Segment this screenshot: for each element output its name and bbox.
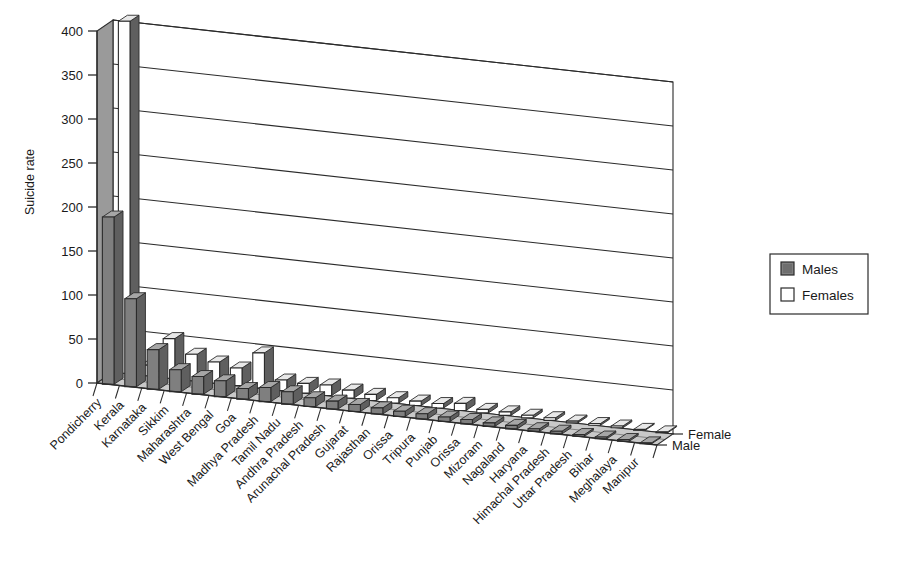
bar-front-face — [282, 392, 294, 404]
category-tick — [384, 415, 388, 428]
y-axis-tick-label: 100 — [61, 288, 83, 303]
category-tick — [541, 433, 545, 446]
legend-swatch-males-inner — [783, 264, 792, 273]
bar-front-face — [147, 350, 159, 390]
category-tick — [407, 418, 411, 431]
series-label-male: Male — [672, 438, 700, 453]
bar-front-face — [102, 217, 114, 384]
category-tick — [227, 398, 231, 411]
bar-male — [192, 371, 213, 395]
category-tick — [205, 395, 209, 408]
legend-label-females: Females — [802, 288, 854, 303]
y-axis-tick-label: 400 — [61, 24, 83, 39]
category-tick — [496, 428, 500, 441]
category-tick — [183, 393, 187, 406]
bar-male — [102, 211, 123, 384]
bar-side-face — [136, 293, 145, 387]
bar-front-face — [170, 370, 182, 392]
bar-front-face — [522, 415, 534, 418]
bar-front-face — [192, 377, 204, 395]
bar-male — [125, 293, 146, 387]
bar-front-face — [566, 421, 578, 423]
category-tick — [519, 430, 523, 443]
y-axis-title: Suicide rate — [23, 149, 37, 215]
category-tick — [317, 408, 321, 421]
category-tick — [631, 443, 635, 456]
category-tick — [138, 388, 142, 401]
y-axis-tick-label: 0 — [76, 376, 83, 391]
bar-front-face — [477, 409, 489, 413]
bar-front-face — [611, 426, 623, 428]
legend: MalesFemales — [770, 254, 868, 314]
bar-front-face — [544, 418, 556, 421]
bar-front-face — [454, 403, 466, 410]
bar-front-face — [259, 388, 271, 402]
category-tick — [295, 405, 299, 418]
y-axis-tick-label: 250 — [61, 156, 83, 171]
category-tick — [474, 425, 478, 438]
bar-front-face — [589, 424, 601, 426]
category-tick — [429, 420, 433, 433]
legend-label-males: Males — [802, 262, 838, 277]
legend-swatch-females — [781, 288, 794, 301]
category-tick — [451, 423, 455, 436]
y-axis-tick-label: 50 — [69, 332, 83, 347]
bar-male — [170, 364, 191, 392]
bar-side-face — [159, 344, 168, 390]
category-tick — [250, 400, 254, 413]
category-tick — [93, 383, 97, 396]
category-tick — [160, 390, 164, 403]
bar-front-face — [214, 381, 226, 397]
bar-front-face — [237, 389, 249, 400]
bar-front-face — [499, 412, 511, 416]
bar-front-face — [634, 429, 646, 430]
category-tick — [362, 413, 366, 426]
bar-front-face — [326, 401, 338, 409]
suicide-rate-3d-bar-chart: 050100150200250300350400Suicide ratePond… — [0, 0, 901, 564]
category-tick — [653, 445, 657, 458]
category-tick — [272, 403, 276, 416]
y-axis-tick-label: 300 — [61, 112, 83, 127]
category-tick — [115, 385, 119, 398]
bar-front-face — [656, 432, 668, 433]
y-axis-tick-label: 150 — [61, 244, 83, 259]
category-tick — [563, 435, 567, 448]
bar-front-face — [125, 299, 137, 387]
bar-front-face — [304, 398, 316, 407]
category-tick — [586, 438, 590, 451]
bar-male — [147, 344, 168, 390]
category-tick — [339, 410, 343, 423]
y-axis-tick-label: 200 — [61, 200, 83, 215]
bar-side-face — [114, 211, 123, 384]
y-axis: 050100150200250300350400 — [61, 24, 97, 391]
chart-container: 050100150200250300350400Suicide ratePond… — [0, 0, 901, 564]
y-axis-tick-label: 350 — [61, 68, 83, 83]
category-tick — [608, 440, 612, 453]
